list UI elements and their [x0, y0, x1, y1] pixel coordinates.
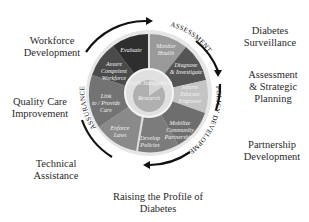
arrow-head-icon [146, 17, 153, 25]
label-technical-assistance: Technical Assistance [28, 158, 84, 182]
arrow-head-icon [143, 161, 150, 169]
core-label: Research [137, 95, 160, 101]
seg-develop-policies: DevelopPolicies [139, 135, 160, 148]
seg-evaluate: Evaluate [119, 47, 142, 53]
label-workforce: Workforce Development [22, 35, 82, 59]
label-partnership: Partnership Development [236, 139, 308, 163]
center-label: System Management [126, 80, 172, 86]
arrow-head-icon [214, 70, 222, 77]
label-quality-care: Quality Care Improvement [10, 96, 70, 120]
label-assessment-planning: Assessment & Strategic Planning [245, 69, 301, 105]
label-surveillance: Diabetes Surveillance [240, 25, 300, 49]
label-raising-profile: Raising the Profile of Diabetes [98, 191, 218, 215]
seg-monitor-health: MonitorHealth [155, 43, 176, 56]
